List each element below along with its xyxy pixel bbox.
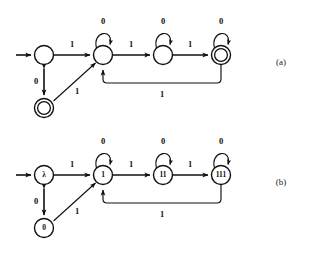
a-edge-s2-s3-label: 1 bbox=[188, 39, 192, 49]
b-self-loop-1-label: 0 bbox=[101, 136, 105, 146]
fsm-figure: 1 0 1 0 1 0 1 0 1 bbox=[0, 0, 311, 255]
a-state-s1[interactable] bbox=[94, 46, 113, 65]
b-state-0-label: 0 bbox=[42, 223, 46, 232]
a-state-s2[interactable] bbox=[154, 46, 173, 65]
a-edge-feedback-label: 1 bbox=[160, 89, 164, 99]
b-state-11-label: 11 bbox=[159, 170, 166, 179]
a-edge-feedback bbox=[103, 65, 221, 83]
b-state-0[interactable]: 0 bbox=[35, 219, 54, 238]
b-state-1[interactable]: 1 bbox=[94, 166, 113, 185]
a-state-s3-accepting[interactable] bbox=[212, 46, 231, 65]
panel-b-caption: (b) bbox=[276, 177, 287, 187]
b-edge-1-11-label: 1 bbox=[129, 159, 133, 169]
a-state-s0-accepting[interactable] bbox=[35, 99, 54, 118]
b-state-lambda[interactable]: λ bbox=[35, 166, 54, 185]
b-edge-lambda-0-label: 0 bbox=[34, 196, 38, 206]
fsm-diagram-svg: 1 0 1 0 1 0 1 0 1 bbox=[0, 0, 311, 255]
a-edge-s1-s2-label: 1 bbox=[129, 39, 133, 49]
b-state-111-label: 111 bbox=[216, 170, 227, 179]
a-edge-start-s0-label: 0 bbox=[34, 76, 38, 86]
a-self-loop-s3-label: 0 bbox=[219, 16, 223, 26]
b-edge-feedback bbox=[103, 185, 221, 203]
b-state-1-label: 1 bbox=[101, 170, 105, 179]
b-edge-lambda-1-label: 1 bbox=[70, 159, 74, 169]
panel-b: 1 0 1 0 1 0 1 0 1 bbox=[16, 136, 286, 238]
b-state-11[interactable]: 11 bbox=[154, 166, 173, 185]
b-edge-feedback-label: 1 bbox=[160, 209, 164, 219]
a-edge-s0-s1-label: 1 bbox=[75, 86, 79, 96]
a-edge-start-s1-label: 1 bbox=[70, 39, 74, 49]
b-self-loop-11-label: 0 bbox=[161, 136, 165, 146]
b-edge-11-111-label: 1 bbox=[188, 159, 192, 169]
a-self-loop-s1-label: 0 bbox=[101, 16, 105, 26]
panel-a: 1 0 1 0 1 0 1 0 1 bbox=[16, 16, 286, 118]
a-state-start[interactable] bbox=[35, 46, 54, 65]
b-state-lambda-label: λ bbox=[42, 170, 46, 179]
b-edge-0-1-label: 1 bbox=[75, 206, 79, 216]
b-state-111[interactable]: 111 bbox=[212, 166, 231, 185]
panel-a-caption: (a) bbox=[276, 57, 286, 67]
b-self-loop-111-label: 0 bbox=[219, 136, 223, 146]
a-self-loop-s2-label: 0 bbox=[161, 16, 165, 26]
